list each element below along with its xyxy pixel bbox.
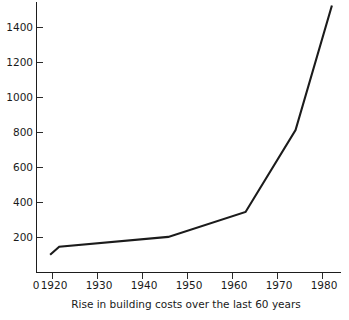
x-tick-label-1940: 1940 bbox=[131, 279, 158, 291]
y-axis-ticks bbox=[37, 28, 43, 238]
x-tick-label-1930: 1930 bbox=[86, 279, 113, 291]
x-tick-label-1960: 1960 bbox=[221, 279, 248, 291]
x-axis-ticks bbox=[53, 273, 323, 279]
x-tick-label-1970: 1970 bbox=[266, 279, 293, 291]
y-tick-label-600: 600 bbox=[13, 161, 33, 173]
y-tick-label-200: 200 bbox=[13, 231, 33, 243]
chart-figure: 200 400 600 800 1000 1200 1400 0 1920 19… bbox=[0, 0, 349, 320]
x-tick-label-1920: 1920 bbox=[41, 279, 68, 291]
data-series-line bbox=[50, 6, 332, 255]
x-tick-label-1980: 1980 bbox=[311, 279, 338, 291]
y-tick-label-800: 800 bbox=[13, 126, 33, 138]
y-tick-label-1000: 1000 bbox=[6, 91, 33, 103]
chart-caption: Rise in building costs over the last 60 … bbox=[71, 298, 301, 310]
y-tick-label-1200: 1200 bbox=[6, 56, 33, 68]
line-chart-plot: 200 400 600 800 1000 1200 1400 0 1920 19… bbox=[0, 0, 349, 320]
x-tick-label-0: 0 bbox=[33, 279, 40, 291]
x-tick-label-1950: 1950 bbox=[176, 279, 203, 291]
y-tick-label-400: 400 bbox=[13, 196, 33, 208]
y-tick-label-1400: 1400 bbox=[6, 21, 33, 33]
